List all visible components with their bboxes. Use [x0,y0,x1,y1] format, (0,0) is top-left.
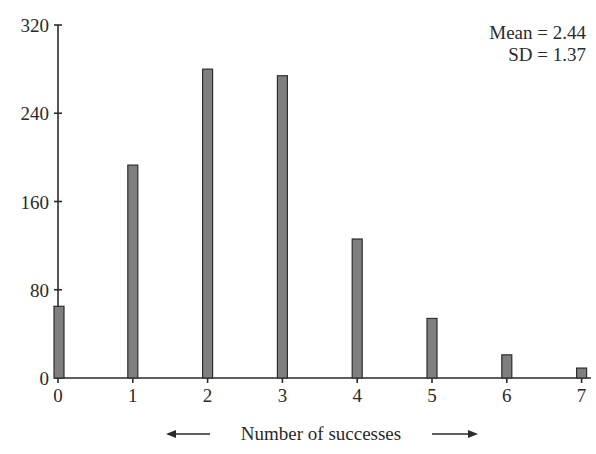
x-axis-title: Number of successes [166,423,478,444]
bar [502,355,512,378]
bars [54,69,587,378]
x-axis: 01234567 [53,378,591,406]
bar [203,69,213,378]
bar [277,76,287,378]
x-tick-label: 1 [128,385,138,406]
bar [577,368,587,378]
y-tick-label: 240 [21,103,50,124]
bar [427,318,437,378]
bar [128,165,138,378]
x-tick-label: 5 [427,385,437,406]
sd-annotation: SD = 1.37 [508,44,586,65]
right-arrow-icon [432,430,478,438]
left-arrow-icon [166,430,210,438]
bar [352,239,362,378]
x-tick-label: 7 [577,385,587,406]
x-tick-label: 0 [53,385,63,406]
x-tick-label: 3 [278,385,288,406]
bar [54,306,64,378]
y-tick-label: 320 [21,15,50,36]
y-tick-label: 0 [40,368,50,389]
x-tick-label: 6 [502,385,512,406]
mean-annotation: Mean = 2.44 [489,22,586,43]
x-axis-label: Number of successes [241,423,401,444]
x-tick-label: 4 [352,385,362,406]
y-tick-label: 160 [21,192,50,213]
bar-chart: 080160240320 01234567 Mean = 2.44 SD = 1… [0,0,596,454]
y-tick-label: 80 [30,280,49,301]
x-tick-label: 2 [203,385,213,406]
